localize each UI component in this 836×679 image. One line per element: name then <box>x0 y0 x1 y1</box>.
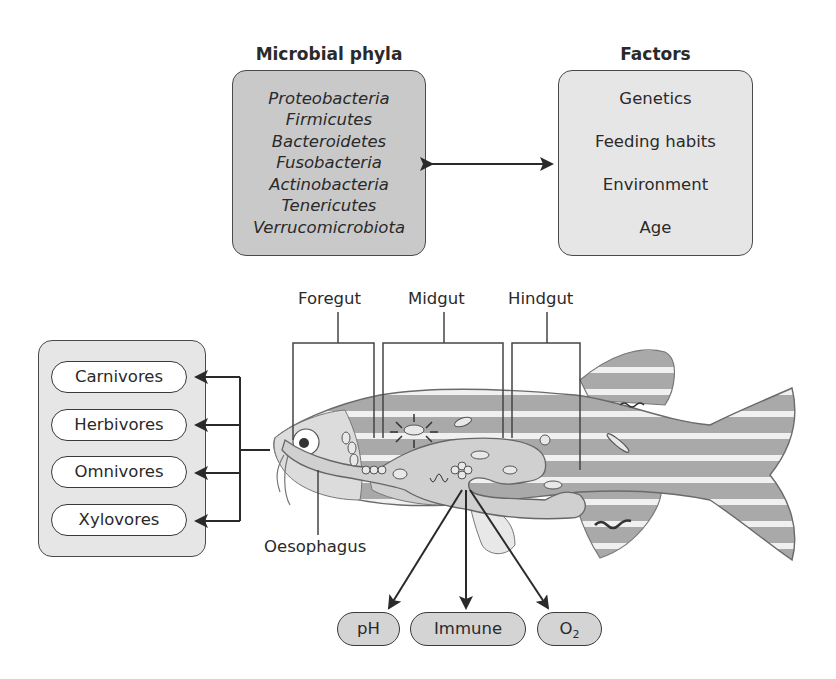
ph-pill: pH <box>337 612 400 646</box>
immune-pill: Immune <box>410 612 526 646</box>
feeding-connectors <box>196 377 270 521</box>
o2-subscript: 2 <box>573 628 580 641</box>
o2-label: O <box>560 619 573 638</box>
oesophagus-label: Oesophagus <box>264 537 366 556</box>
fish-diagram <box>0 0 836 679</box>
midgut-label: Midgut <box>408 289 465 308</box>
foregut-label: Foregut <box>298 289 361 308</box>
o2-pill: O2 <box>537 612 602 646</box>
hindgut-label: Hindgut <box>508 289 573 308</box>
